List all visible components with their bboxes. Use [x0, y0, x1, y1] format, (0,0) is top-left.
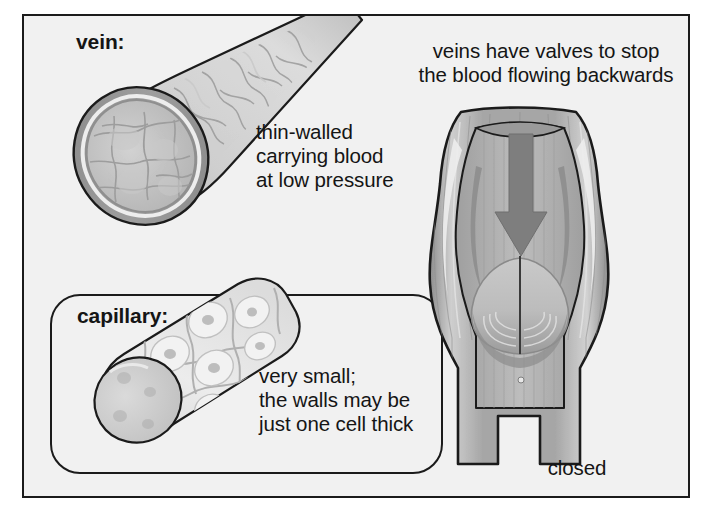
capillary-description: very small; the walls may be just one ce…: [259, 364, 413, 436]
valve-state-label: closed: [512, 456, 642, 480]
valve-description: veins have valves to stop the blood flow…: [401, 39, 690, 87]
capillary-label: capillary:: [77, 304, 168, 329]
blood-vessel-diagram: vein: thin-walled carrying blood at low …: [0, 0, 713, 525]
diagram-frame: vein: thin-walled carrying blood at low …: [22, 14, 690, 498]
vein-label: vein:: [76, 30, 125, 55]
vein-description: thin-walled carrying blood at low pressu…: [256, 120, 394, 192]
